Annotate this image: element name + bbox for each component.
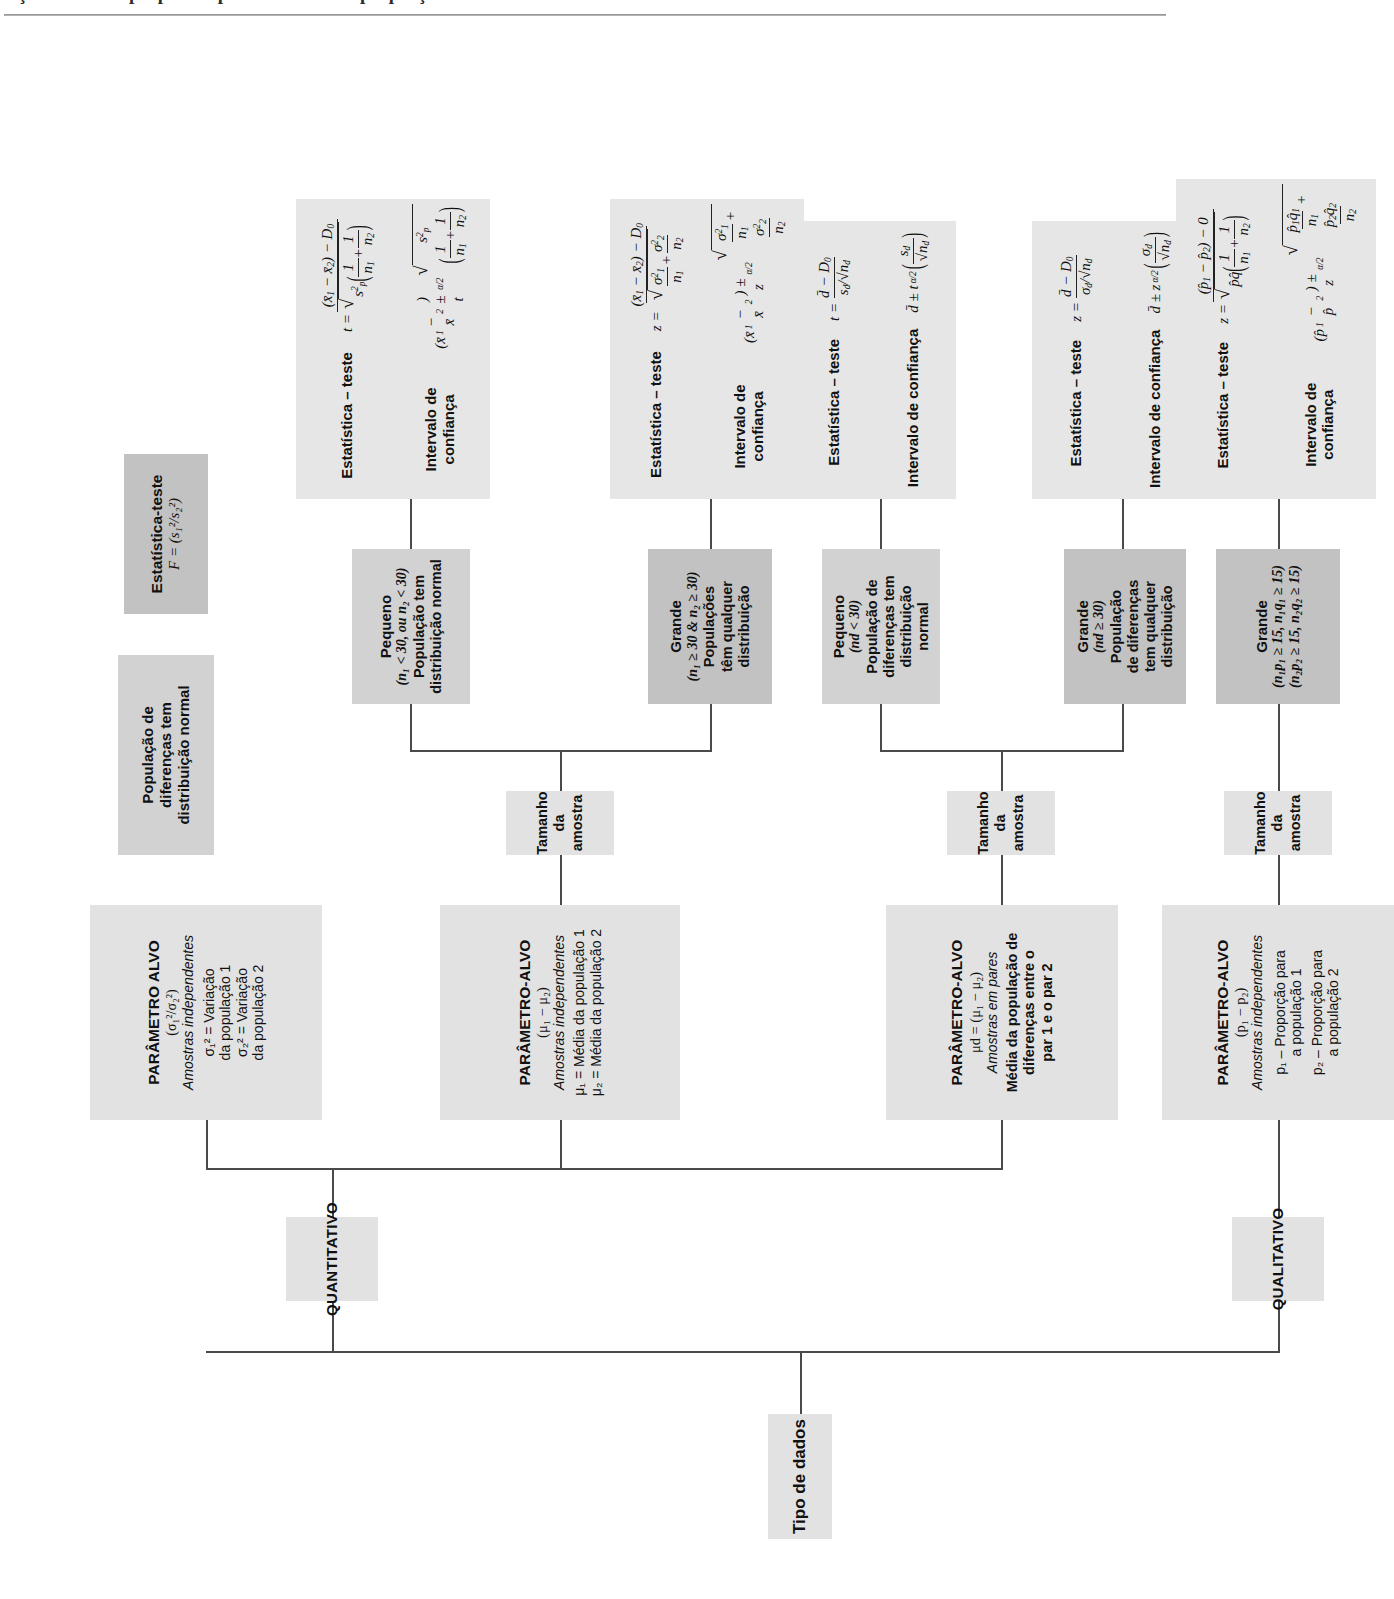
node-mu-grande-line2: têm qualquer bbox=[719, 581, 736, 672]
node-parametro-alvo-proporcao[interactable]: PARÂMETRO-ALVO (p₁ − p₂) Amostras indepe… bbox=[1162, 905, 1394, 1120]
node-formula-mud-grande[interactable]: Estatística – teste z = d̄ − D0 σd/√nd I… bbox=[1032, 221, 1198, 499]
node-qualitativo[interactable]: QUALITATIVO bbox=[1232, 1217, 1324, 1301]
node-mud-grande-cond: (nd ≥ 30) bbox=[1091, 600, 1108, 653]
node-mudiff-line2: μ₂ = Média da população 2 bbox=[588, 929, 605, 1096]
connector-mudlarge-to-formula bbox=[1122, 499, 1124, 549]
node-mu-grande-line3: distribuição bbox=[736, 585, 753, 667]
connector-size2-to-split bbox=[1001, 751, 1003, 791]
connector-split-mu-large bbox=[710, 704, 712, 752]
connector-proplarge-to-formula bbox=[1278, 499, 1280, 549]
node-variancia-line1: σ₁² = Variação bbox=[201, 968, 218, 1056]
node-mud-subtitle: Amostras em pares bbox=[984, 952, 1001, 1073]
connector-split-mud-small bbox=[880, 704, 882, 752]
connector-prop-to-size bbox=[1278, 855, 1280, 905]
connector-mularge-to-formula bbox=[710, 499, 712, 549]
node-quantitativo-label: QUANTITATIVO bbox=[323, 1202, 341, 1316]
node-mu-grande-cond: (n₁ ≥ 30 & n₂ ≥ 30) bbox=[685, 572, 702, 682]
node-mudiff-line1: μ₁ = Média da população 1 bbox=[571, 929, 588, 1096]
node-prop-title: PARÂMETRO-ALVO bbox=[1214, 940, 1232, 1086]
connector-size3-to-large bbox=[1278, 704, 1280, 791]
node-tamanho-da-amostra-mu[interactable]: Tamanho da amostra bbox=[506, 791, 614, 855]
connector-split-mu-small bbox=[410, 704, 412, 752]
node-root-label: Tipo de dados bbox=[790, 1419, 810, 1534]
node-prop-grande-title: Grande bbox=[1253, 600, 1271, 653]
connector-quant-to-varratio bbox=[206, 1120, 208, 1170]
node-mu-pequeno-cond: (n₁ < 30, ou n₂ < 30) bbox=[394, 568, 411, 686]
node-prop-grande-cond2: (n₂p₂ ≥ 15, n₂q₂ ≥ 15) bbox=[1287, 565, 1304, 688]
connector-size-to-split-a bbox=[560, 751, 562, 791]
formula-prop-stat-label: Estatística – teste bbox=[1214, 342, 1232, 469]
node-mu-pequeno-line2: distribuição normal bbox=[428, 559, 445, 694]
formula-prop-ci-label: Intervalo de confiança bbox=[1302, 355, 1337, 494]
node-formula-mud-pequeno[interactable]: Estatística – teste t = d̄ − D0 sd/√nd I… bbox=[790, 221, 956, 499]
node-tamanho-da-amostra-prop[interactable]: Tamanho da amostra bbox=[1224, 791, 1332, 855]
node-variancia-line4: da população 2 bbox=[250, 965, 267, 1061]
node-mud-pequeno-title: Pequeno bbox=[830, 595, 848, 658]
connector-mudsmall-to-formula bbox=[880, 499, 882, 549]
node-variancia-assumption[interactable]: População de diferenças tem distribuição… bbox=[118, 655, 214, 855]
connector-quant-branch-spine bbox=[206, 1168, 1002, 1170]
node-variancia-assumption-line2: diferenças tem bbox=[157, 702, 175, 808]
node-mud-line1: Média da população de bbox=[1004, 933, 1021, 1093]
node-mu-pequeno-line1: População tem bbox=[411, 575, 428, 678]
node-variancia-assumption-line3: distribuição normal bbox=[175, 685, 193, 824]
connector-root-right bbox=[800, 1352, 802, 1414]
node-tamanho-amostra-label-3: Tamanho da amostra bbox=[1252, 791, 1303, 854]
node-formula-proporcao[interactable]: Estatística – teste z = (p̂1 − p̂2) − 0 … bbox=[1176, 179, 1376, 499]
node-mud-pequeno-cond: (nd < 30) bbox=[847, 600, 864, 653]
connector-split-mud bbox=[880, 750, 1122, 752]
node-variancia-title: PARÂMETRO ALVO bbox=[145, 940, 163, 1084]
node-prop-line3: p₂ – Proporção para bbox=[1309, 950, 1326, 1075]
node-variancia-line3: σ₂² = Variação bbox=[234, 968, 251, 1057]
node-variancia-subtitle: Amostras independentes bbox=[180, 935, 197, 1090]
node-mudiff-title: PARÂMETRO-ALVO bbox=[516, 940, 534, 1086]
node-formula-mu-grande[interactable]: Estatística – teste z = (x̄1 − x̄2) − D0… bbox=[610, 199, 804, 499]
node-mud-line2: diferenças entre o bbox=[1021, 950, 1038, 1075]
node-tamanho-da-amostra-mud[interactable]: Tamanho da amostra bbox=[947, 791, 1055, 855]
connector-musmall-to-formula bbox=[410, 499, 412, 549]
node-variancia-stat-formula: F = (s₁²/s₂²) bbox=[166, 498, 184, 570]
node-mud-pequeno-line1: População de bbox=[864, 579, 881, 673]
node-quantitativo[interactable]: QUANTITATIVO bbox=[286, 1217, 378, 1301]
connector-qualitativo-out bbox=[1278, 1120, 1280, 1217]
node-mud-grande-line4: distribuição bbox=[1159, 585, 1176, 667]
node-mudiff-param: (μ₁ − μ₂) bbox=[534, 987, 551, 1038]
node-mu-grande-line1: Populações bbox=[701, 586, 718, 667]
node-parametro-alvo-variancia[interactable]: PARÂMETRO ALVO (σ₁²/σ₂²) Amostras indepe… bbox=[90, 905, 322, 1120]
connector-split-mu bbox=[410, 750, 710, 752]
node-mud-pequeno[interactable]: Pequeno (nd < 30) População de diferença… bbox=[822, 549, 940, 704]
node-root-tipo-de-dados[interactable]: Tipo de dados bbox=[768, 1414, 832, 1539]
node-mud-pequeno-line3: distribuição bbox=[898, 585, 915, 667]
node-variancia-stat-title: Estatística-teste bbox=[148, 475, 166, 594]
connector-split-mud-large bbox=[1122, 704, 1124, 752]
node-mud-grande-line2: de diferenças bbox=[1125, 580, 1142, 674]
node-prop-grande-cond1: (n₁p₁ ≥ 15, n₁q₁ ≥ 15) bbox=[1270, 565, 1287, 688]
node-prop-line1: p₁ – Proporção para bbox=[1272, 950, 1289, 1075]
node-mudiff-subtitle: Amostras independentes bbox=[551, 935, 568, 1090]
node-parametro-alvo-mu-diff[interactable]: PARÂMETRO-ALVO (μ₁ − μ₂) Amostras indepe… bbox=[440, 905, 680, 1120]
formula-mud-grande-ci-label: Intervalo de confiança bbox=[1146, 330, 1164, 488]
node-mud-grande[interactable]: Grande (nd ≥ 30) População de diferenças… bbox=[1064, 549, 1186, 704]
connector-mud-to-size bbox=[1001, 855, 1003, 905]
formula-mu-pequeno-ci-label: Intervalo de confiança bbox=[422, 365, 457, 494]
node-mud-grande-line3: tem qualquer bbox=[1142, 581, 1159, 672]
formula-mud-grande-stat-label: Estatística – teste bbox=[1067, 340, 1085, 467]
node-parametro-alvo-mu-d[interactable]: PARÂMETRO-ALVO μd = (μ₁ − μ₂) Amostras e… bbox=[886, 905, 1118, 1120]
node-mu-pequeno[interactable]: Pequeno (n₁ < 30, ou n₂ < 30) População … bbox=[352, 549, 470, 704]
node-variancia-param: (σ₁²/σ₂²) bbox=[164, 989, 181, 1035]
node-mud-grande-title: Grande bbox=[1074, 600, 1092, 653]
formula-mud-pequeno-ci-label: Intervalo de confiança bbox=[904, 329, 922, 487]
node-prop-grande[interactable]: Grande (n₁p₁ ≥ 15, n₁q₁ ≥ 15) (n₂p₂ ≥ 15… bbox=[1216, 549, 1340, 704]
node-variancia-line2: da população 1 bbox=[217, 965, 234, 1061]
node-mud-pequeno-line4: normal bbox=[915, 602, 932, 650]
node-tamanho-amostra-label-2: Tamanho da amostra bbox=[975, 791, 1026, 854]
node-variancia-assumption-line1: População de bbox=[139, 706, 157, 804]
connector-quant-to-mud bbox=[1001, 1120, 1003, 1170]
node-mu-grande[interactable]: Grande (n₁ ≥ 30 & n₂ ≥ 30) Populações tê… bbox=[648, 549, 772, 704]
node-variancia-estatistica-teste[interactable]: Estatística-teste F = (s₁²/s₂²) bbox=[124, 454, 208, 614]
node-formula-mu-pequeno[interactable]: Estatística – teste t = (x̄1 − x̄2) − D0… bbox=[296, 199, 490, 499]
formula-mu-grande-ci-label: Intervalo de confiança bbox=[731, 359, 766, 494]
connector-mudiff-to-size bbox=[560, 855, 562, 905]
